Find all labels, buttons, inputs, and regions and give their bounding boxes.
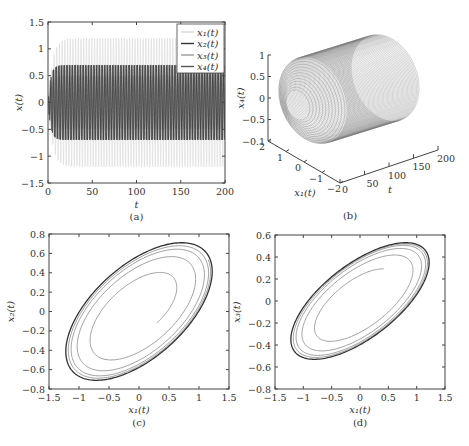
- x-axis-label: x₁(t): [349, 404, 371, 415]
- y-tick-label: −0.2: [22, 325, 45, 336]
- z-tick-label: 0.5: [250, 71, 265, 82]
- legend-entry: x₃(t): [197, 50, 219, 61]
- x1-tick-label: 2: [259, 141, 265, 152]
- x-tick-label: 1.5: [221, 392, 236, 403]
- x1-axis-label: x₁(t): [294, 187, 316, 198]
- t-axis-label: t: [388, 184, 393, 195]
- legend-entry: x₄(t): [197, 61, 219, 72]
- y-tick-label: −1: [30, 151, 44, 162]
- t-tick-label: 0: [342, 184, 348, 195]
- y-tick-label: −0.8: [248, 384, 271, 395]
- y-tick-label: 0: [265, 296, 271, 307]
- t-tick-label: 150: [412, 161, 430, 172]
- x1-tick-label: −2: [327, 183, 341, 194]
- trajectory: [293, 244, 427, 357]
- legend: x₁(t)x₂(t)x₃(t)x₄(t): [177, 24, 224, 73]
- x-tick-label: 100: [127, 186, 145, 197]
- helix-trajectory: [267, 24, 432, 154]
- y-axis-label: x₂(t): [5, 301, 16, 323]
- x-tick-label: 200: [216, 186, 234, 197]
- y-tick-label: −1.5: [21, 178, 44, 189]
- y-tick-label: −0.4: [248, 340, 271, 351]
- x-tick-label: −0.5: [320, 392, 343, 403]
- x-tick-label: 150: [172, 186, 190, 197]
- y-tick-label: 0: [38, 97, 44, 108]
- x-tick-label: 0: [45, 186, 51, 197]
- panel-c-phase-portrait: −1.5−1−0.500.511.5−0.8−0.6−0.4−0.200.20.…: [5, 229, 237, 429]
- figure: 050100150200−1.5−1−0.500.511.5tx(t)(a)x₁…: [0, 0, 469, 446]
- x-tick-label: −0.5: [97, 392, 120, 403]
- panel-a-time-series: 050100150200−1.5−1−0.500.511.5tx(t)(a)x₁…: [13, 17, 234, 223]
- y-tick-label: 1: [38, 43, 44, 54]
- y-tick-label: −0.5: [21, 124, 44, 135]
- panel-label: (d): [353, 417, 367, 428]
- z-tick-label: −0.5: [242, 114, 265, 125]
- y-tick-label: 0.2: [30, 287, 45, 298]
- y-axis-label: x₃(t): [231, 301, 242, 323]
- y-tick-label: 0.4: [30, 267, 45, 278]
- x-tick-label: 50: [86, 186, 98, 197]
- y-tick-label: 0.6: [256, 230, 271, 241]
- y-tick-label: 0.5: [29, 70, 44, 81]
- x-tick-label: 1.5: [437, 392, 452, 403]
- t-tick-label: 100: [388, 170, 406, 181]
- t-tick-label: 200: [437, 153, 455, 164]
- panel-label: (c): [132, 417, 146, 428]
- x-axis-label: x₁(t): [128, 404, 150, 415]
- x-tick-label: 1: [196, 392, 202, 403]
- y-tick-label: 1.5: [29, 17, 44, 28]
- y-tick-label: −0.2: [248, 318, 271, 329]
- y-tick-label: 0.2: [256, 274, 271, 285]
- panel-d-phase-portrait: −1.5−1−0.500.511.5−0.8−0.6−0.4−0.200.20.…: [231, 230, 453, 429]
- x-tick-label: 0.5: [161, 392, 176, 403]
- panel-label: (a): [130, 211, 144, 222]
- z-tick-label: 0: [259, 93, 265, 104]
- y-axis-label: x(t): [13, 94, 24, 112]
- y-tick-label: −0.8: [22, 384, 45, 395]
- t-tick-label: 50: [366, 178, 378, 189]
- panel-label: (b): [343, 210, 357, 221]
- trajectory: [68, 246, 210, 378]
- y-tick-label: 0: [39, 306, 45, 317]
- x1-tick-label: −1: [309, 173, 323, 184]
- panel-b-3d-trajectory: 10.50−0.5−0.1x₄(t)210−1−2x₁(t)0501001502…: [235, 24, 455, 221]
- x1-tick-label: 1: [277, 152, 283, 163]
- x-tick-label: −1: [296, 392, 310, 403]
- x-tick-label: 0: [136, 392, 142, 403]
- y-tick-label: −0.6: [22, 364, 45, 375]
- x-tick-label: 0: [357, 392, 363, 403]
- y-tick-label: 0.8: [30, 229, 45, 240]
- x-axis-label: t: [134, 199, 139, 210]
- x-tick-label: 0.5: [381, 392, 396, 403]
- legend-entry: x₂(t): [197, 38, 219, 49]
- x1-tick-label: 0: [295, 162, 301, 173]
- y-tick-label: 0.6: [30, 248, 45, 259]
- z-axis-label: x₄(t): [235, 87, 246, 109]
- y-tick-label: −0.6: [248, 362, 271, 373]
- x-tick-label: 1: [414, 392, 420, 403]
- y-tick-label: −0.4: [22, 345, 45, 356]
- y-tick-label: 0.4: [256, 252, 271, 263]
- z-tick-label: 1: [259, 50, 265, 61]
- legend-entry: x₁(t): [197, 27, 219, 38]
- x-tick-label: −1: [72, 392, 86, 403]
